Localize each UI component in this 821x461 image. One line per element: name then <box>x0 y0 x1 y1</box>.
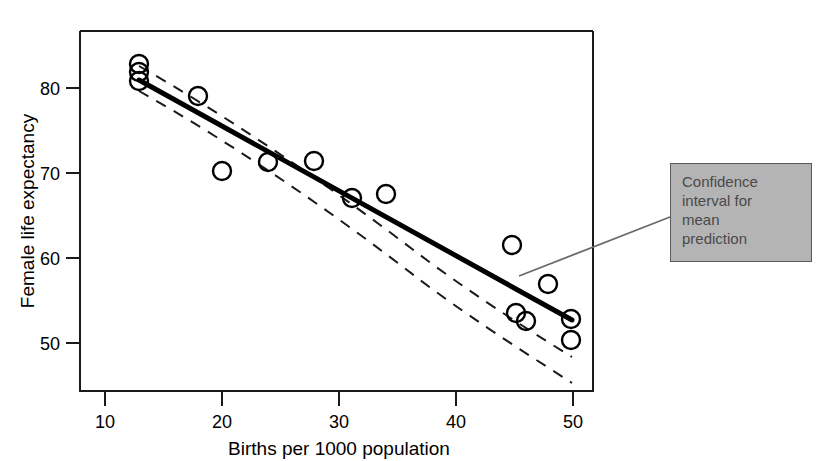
annotation-leader-line <box>519 217 670 276</box>
x-tick-label-50: 50 <box>563 412 583 432</box>
y-tick-label-80: 80 <box>40 79 60 99</box>
x-tick-label-40: 40 <box>446 412 466 432</box>
y-axis-title: Female life expectancy <box>17 113 38 308</box>
data-point <box>305 152 323 170</box>
data-point <box>562 331 580 349</box>
y-axis-ticks <box>66 88 80 343</box>
data-point <box>213 162 231 180</box>
data-point <box>259 153 277 171</box>
y-tick-label-60: 60 <box>40 249 60 269</box>
annotation-text: Confidence interval for mean prediction <box>682 172 811 248</box>
x-axis-title: Births per 1000 population <box>228 438 450 459</box>
x-axis-tick-labels: 10 20 30 40 50 <box>95 412 583 432</box>
x-tick-label-30: 30 <box>329 412 349 432</box>
data-point <box>539 275 557 293</box>
confidence-interval-annotation: Confidence interval for mean prediction <box>670 163 812 262</box>
data-point <box>503 236 521 254</box>
y-tick-label-50: 50 <box>40 334 60 354</box>
data-point <box>377 185 395 203</box>
plot-frame <box>80 31 593 391</box>
x-tick-label-20: 20 <box>212 412 232 432</box>
regression-line <box>139 80 572 320</box>
x-tick-label-10: 10 <box>95 412 115 432</box>
figure-root: Figure: Female life expectancy vs births… <box>0 0 821 461</box>
y-axis-tick-labels: 80 70 60 50 <box>40 79 60 354</box>
x-axis-ticks <box>105 391 573 406</box>
y-tick-label-70: 70 <box>40 164 60 184</box>
